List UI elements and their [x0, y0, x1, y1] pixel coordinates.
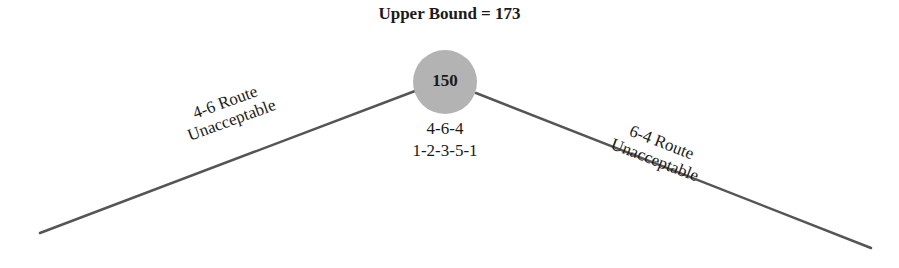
tour-sequence: 1-2-3-5-1	[385, 140, 505, 162]
node-sequences: 4-6-4 1-2-3-5-1	[385, 118, 505, 162]
root-node-value: 150	[405, 71, 485, 91]
route-sequence: 4-6-4	[385, 118, 505, 140]
